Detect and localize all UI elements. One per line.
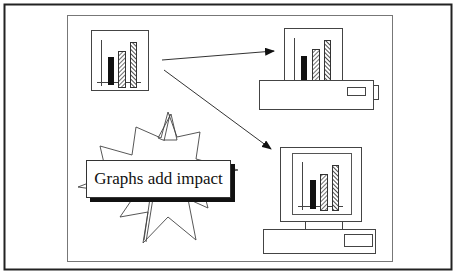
computer xyxy=(264,148,376,254)
printer xyxy=(260,29,379,110)
printer-side-tab xyxy=(374,86,379,100)
printer-button xyxy=(348,88,366,96)
monitor-chart-bar-1 xyxy=(310,180,316,209)
caption-text: Graphs add impact xyxy=(94,169,222,189)
diagram-canvas xyxy=(0,0,457,275)
caption-box: Graphs add impact xyxy=(86,160,231,198)
source-chart-bar-1 xyxy=(108,57,114,85)
source-chart xyxy=(92,31,149,91)
monitor-stand xyxy=(306,222,343,230)
monitor-chart-bar-2 xyxy=(321,175,328,211)
printer-chart-bar-2 xyxy=(313,50,320,81)
printer-chart-bar-3 xyxy=(325,41,331,81)
printer-chart-bar-1 xyxy=(301,56,307,80)
source-chart-bar-2 xyxy=(119,52,126,88)
arrow-to-printer xyxy=(162,51,274,60)
source-chart-bar-3 xyxy=(131,43,137,88)
disk-drive xyxy=(345,235,373,247)
monitor-chart-bar-3 xyxy=(333,166,339,211)
outer-frame xyxy=(5,5,452,270)
